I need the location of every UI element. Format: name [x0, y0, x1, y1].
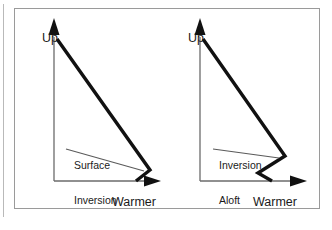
left-x-axis-label: Warmer [112, 197, 156, 209]
right-y-axis-label: Up [188, 33, 204, 45]
figure-frame: Up Warmer Surface Inversion Up Warmer In… [14, 8, 320, 209]
panel-surface-inversion [15, 9, 319, 208]
left-x-axis-arrowhead [144, 176, 161, 187]
left-y-axis-label: Up [42, 33, 58, 45]
left-annotation-line-2: Inversion [74, 195, 117, 207]
left-annotation-label: Surface Inversion [74, 137, 117, 229]
right-annotation-line-1: Inversion [219, 160, 262, 172]
right-x-axis-arrowhead [290, 176, 307, 187]
figure-root: Up Warmer Surface Inversion Up Warmer In… [0, 0, 332, 230]
page-margin-rule [3, 4, 4, 217]
right-annotation-label: Inversion Aloft [219, 137, 262, 229]
left-annotation-line-1: Surface [74, 160, 117, 172]
right-annotation-line-2: Aloft [219, 195, 262, 207]
